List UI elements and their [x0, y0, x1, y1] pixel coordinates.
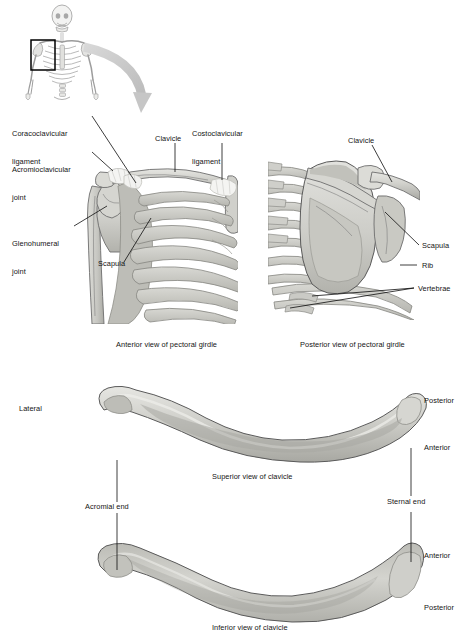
label-glenohumeral-joint: Glenohumeral joint [12, 220, 59, 295]
label-acromioclavicular-joint-line2: joint [12, 193, 71, 202]
label-rib: Rib [422, 261, 433, 270]
label-costoclavicular-ligament: Costoclavicular ligament [192, 110, 243, 185]
label-glenohumeral-joint-line1: Glenohumeral [12, 239, 59, 248]
label-acromioclavicular-joint: Acromioclavicular joint [12, 146, 71, 221]
anatomy-figure: Coracoclavicular ligament Acromioclavicu… [0, 0, 475, 636]
label-anterior-inferior: Anterior [424, 551, 450, 560]
label-costoclavicular-ligament-line2: ligament [192, 157, 243, 166]
label-coracoclavicular-ligament-line1: Coracoclavicular [12, 129, 67, 138]
label-costoclavicular-ligament-line1: Costoclavicular [192, 129, 243, 138]
label-scapula-posterior: Scapula [422, 241, 449, 250]
label-clavicle-posterior: Clavicle [348, 136, 374, 145]
label-posterior-inferior: Posterior [424, 603, 454, 612]
label-lateral: Lateral [19, 404, 42, 413]
label-acromial-end: Acromial end [85, 502, 129, 511]
caption-superior-clavicle: Superior view of clavicle [212, 472, 293, 481]
caption-inferior-clavicle: Inferior view of clavicle [212, 623, 288, 632]
label-clavicle-anterior: Clavicle [155, 134, 181, 143]
label-sternal-end: Sternal end [387, 497, 425, 506]
label-posterior-superior: Posterior [424, 396, 454, 405]
caption-anterior-girdle: Anterior view of pectoral girdle [116, 340, 217, 349]
label-anterior-superior: Anterior [424, 443, 450, 452]
caption-posterior-girdle: Posterior view of pectoral girdle [300, 340, 405, 349]
label-layer: Coracoclavicular ligament Acromioclavicu… [0, 0, 475, 636]
label-glenohumeral-joint-line2: joint [12, 267, 59, 276]
label-acromioclavicular-joint-line1: Acromioclavicular [12, 165, 71, 174]
label-scapula-anterior: Scapula [98, 259, 125, 268]
label-vertebrae: Vertebrae [418, 284, 451, 293]
